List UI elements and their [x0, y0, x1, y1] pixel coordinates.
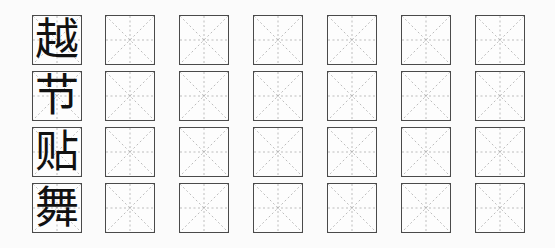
- model-character: 节: [33, 72, 81, 120]
- practice-row: 越: [0, 15, 555, 65]
- mi-grid-guide-icon: [106, 72, 154, 120]
- empty-practice-cell: [475, 71, 525, 121]
- mi-grid-guide-icon: [180, 16, 228, 64]
- model-character: 越: [33, 16, 81, 64]
- empty-practice-cell: [105, 15, 155, 65]
- empty-practice-cell: [105, 71, 155, 121]
- mi-grid-guide-icon: [476, 184, 524, 232]
- empty-practice-cell: [475, 15, 525, 65]
- mi-grid-guide-icon: [180, 72, 228, 120]
- empty-practice-cell: [253, 127, 303, 177]
- model-character: 贴: [33, 128, 81, 176]
- empty-practice-cell: [401, 127, 451, 177]
- mi-grid-guide-icon: [328, 72, 376, 120]
- mi-grid-guide-icon: [106, 16, 154, 64]
- model-character-cell: 舞: [32, 183, 82, 233]
- practice-row: 舞: [0, 183, 555, 233]
- empty-practice-cell: [253, 15, 303, 65]
- empty-practice-cell: [401, 71, 451, 121]
- model-character-cell: 节: [32, 71, 82, 121]
- empty-practice-cell: [401, 183, 451, 233]
- mi-grid-guide-icon: [106, 184, 154, 232]
- model-character: 舞: [33, 184, 81, 232]
- empty-practice-cell: [327, 15, 377, 65]
- mi-grid-guide-icon: [328, 128, 376, 176]
- mi-grid-guide-icon: [254, 128, 302, 176]
- empty-practice-cell: [179, 183, 229, 233]
- writing-practice-sheet: 越节贴舞: [0, 0, 555, 248]
- mi-grid-guide-icon: [180, 128, 228, 176]
- mi-grid-guide-icon: [180, 184, 228, 232]
- mi-grid-guide-icon: [476, 72, 524, 120]
- mi-grid-guide-icon: [254, 184, 302, 232]
- mi-grid-guide-icon: [402, 16, 450, 64]
- mi-grid-guide-icon: [476, 16, 524, 64]
- empty-practice-cell: [475, 183, 525, 233]
- practice-row: 节: [0, 71, 555, 121]
- empty-practice-cell: [327, 71, 377, 121]
- empty-practice-cell: [401, 15, 451, 65]
- empty-practice-cell: [253, 71, 303, 121]
- empty-practice-cell: [179, 71, 229, 121]
- empty-practice-cell: [179, 15, 229, 65]
- model-character-cell: 贴: [32, 127, 82, 177]
- empty-practice-cell: [327, 127, 377, 177]
- empty-practice-cell: [179, 127, 229, 177]
- mi-grid-guide-icon: [254, 72, 302, 120]
- empty-practice-cell: [253, 183, 303, 233]
- model-character-cell: 越: [32, 15, 82, 65]
- mi-grid-guide-icon: [402, 128, 450, 176]
- empty-practice-cell: [475, 127, 525, 177]
- mi-grid-guide-icon: [254, 16, 302, 64]
- empty-practice-cell: [327, 183, 377, 233]
- practice-row: 贴: [0, 127, 555, 177]
- mi-grid-guide-icon: [476, 128, 524, 176]
- mi-grid-guide-icon: [328, 184, 376, 232]
- empty-practice-cell: [105, 127, 155, 177]
- empty-practice-cell: [105, 183, 155, 233]
- mi-grid-guide-icon: [328, 16, 376, 64]
- mi-grid-guide-icon: [106, 128, 154, 176]
- mi-grid-guide-icon: [402, 72, 450, 120]
- mi-grid-guide-icon: [402, 184, 450, 232]
